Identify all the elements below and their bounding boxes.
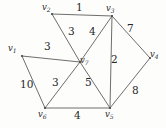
edge-weight-v5-v7: 5 <box>85 77 92 88</box>
graph-edge-v1-v7 <box>22 56 80 62</box>
edge-weight-v1-v7: 3 <box>44 41 51 52</box>
graph-edge-v2-v3 <box>52 14 112 16</box>
edge-weight-v3-v7: 4 <box>89 26 96 37</box>
vertex-label-v1: v1 <box>8 44 17 54</box>
vertex-label-v3: v3 <box>106 4 115 14</box>
vertex-subscript: 1 <box>13 47 17 54</box>
vertex-label-v5: v5 <box>105 110 114 120</box>
vertex-label-v7: v7 <box>80 56 89 66</box>
weighted-graph-figure: v1v2v3v4v5v6v7134728310354 <box>0 0 166 128</box>
vertex-label-v4: v4 <box>150 50 159 60</box>
graph-edge-v6-v7 <box>45 62 80 108</box>
vertex-subscript: 2 <box>47 6 51 13</box>
edge-weight-v3-v5: 2 <box>111 54 118 65</box>
edge-weight-v4-v5: 8 <box>132 85 139 96</box>
edge-weight-v6-v7: 3 <box>52 77 59 88</box>
vertex-label-v6: v6 <box>38 110 47 120</box>
edge-weight-v1-v6: 10 <box>20 79 33 90</box>
edge-weight-v2-v3: 1 <box>76 2 83 13</box>
graph-vertex-dot-v2 <box>51 13 53 15</box>
edge-weight-v6-v5: 4 <box>74 110 81 121</box>
graph-vertex-dot-v6 <box>44 107 46 109</box>
graph-vertex-dot-v3 <box>111 15 113 17</box>
edge-weight-v2-v7: 3 <box>68 26 75 37</box>
edge-weight-v3-v4: 7 <box>127 23 134 34</box>
graph-edge-v4-v5 <box>110 58 150 108</box>
vertex-subscript: 6 <box>43 113 47 120</box>
vertex-label-v2: v2 <box>42 3 51 13</box>
vertex-subscript: 4 <box>155 53 159 60</box>
vertex-subscript: 3 <box>111 7 115 14</box>
graph-vertex-dot-v1 <box>21 55 23 57</box>
graph-edge-v2-v7 <box>52 14 80 62</box>
vertex-subscript: 5 <box>110 113 114 120</box>
vertex-subscript: 7 <box>85 59 89 66</box>
